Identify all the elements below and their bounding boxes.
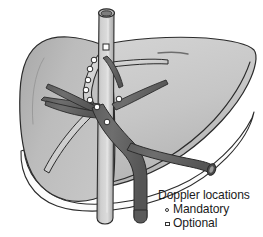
legend-item-optional-label: Optional xyxy=(173,217,217,231)
legend: Doppler locations Mandatory Optional xyxy=(158,189,262,231)
doppler-marker-mandatory[interactable] xyxy=(94,104,100,110)
legend-item-mandatory: Mandatory xyxy=(158,203,262,217)
doppler-marker-optional[interactable] xyxy=(103,44,109,50)
doppler-marker-mandatory[interactable] xyxy=(87,66,93,72)
doppler-marker-mandatory[interactable] xyxy=(104,119,110,125)
doppler-marker-mandatory[interactable] xyxy=(83,87,89,93)
liver-doppler-figure: Doppler locations Mandatory Optional xyxy=(0,0,263,237)
doppler-marker-mandatory[interactable] xyxy=(91,57,97,63)
liver-right-lobe xyxy=(92,37,256,188)
vena-cava-lumen xyxy=(101,11,111,16)
optional-marker-icon xyxy=(164,218,173,229)
doppler-marker-mandatory[interactable] xyxy=(85,77,91,83)
legend-title: Doppler locations xyxy=(158,189,262,203)
legend-item-optional: Optional xyxy=(158,217,262,231)
mandatory-marker-icon xyxy=(164,204,173,215)
doppler-marker-mandatory[interactable] xyxy=(87,97,93,103)
doppler-marker-mandatory[interactable] xyxy=(116,96,122,102)
legend-item-mandatory-label: Mandatory xyxy=(173,203,229,217)
portal-vein-trunk-end xyxy=(134,210,147,223)
optional-markers xyxy=(103,44,109,50)
